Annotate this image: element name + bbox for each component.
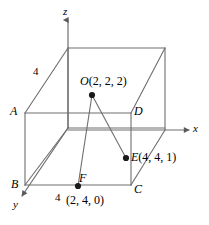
point-marker-O	[89, 92, 95, 98]
point-label-e: E(4, 4, 1)	[131, 151, 176, 163]
vertex-label-d: D	[134, 105, 143, 117]
cube-diagram-svg	[0, 0, 209, 225]
cube-back-face	[68, 48, 165, 130]
point-label-o: O(2, 2, 2)	[80, 75, 127, 87]
edge-length-top-left: 4	[33, 66, 39, 77]
cube-edge-top-left-diagonal	[25, 48, 68, 113]
axis-label-z: z	[63, 6, 67, 17]
axis-label-x: x	[193, 123, 198, 134]
point-label-f-coords: (2, 4, 0)	[66, 194, 104, 206]
point-label-f-name: F	[79, 172, 86, 184]
coordinate-axes	[22, 20, 189, 196]
vertex-label-a: A	[10, 105, 17, 117]
axis-label-y: y	[13, 199, 18, 210]
axis-line-y	[22, 128, 68, 196]
point-e-coords: (4, 4, 1)	[138, 150, 176, 164]
edge-length-bottom-front: 4	[55, 192, 61, 203]
cube-front-face	[25, 113, 131, 185]
vertex-label-c: C	[134, 183, 142, 195]
point-o-name: O	[80, 74, 89, 88]
vertex-label-b: B	[11, 178, 18, 190]
point-o-coords: (2, 2, 2)	[89, 74, 127, 88]
point-marker-E	[123, 155, 129, 161]
segment-O-E	[92, 95, 126, 158]
geometry-figure: z x y A B C D O(2, 2, 2) E(4, 4, 1) F (2…	[0, 0, 209, 225]
